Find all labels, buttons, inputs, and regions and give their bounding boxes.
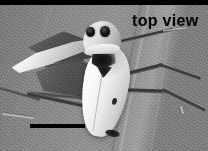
view-label: top view bbox=[132, 13, 198, 29]
insect-photograph: top view bbox=[0, 0, 208, 151]
top-black-bar bbox=[0, 0, 208, 5]
scale-bar bbox=[30, 124, 85, 128]
